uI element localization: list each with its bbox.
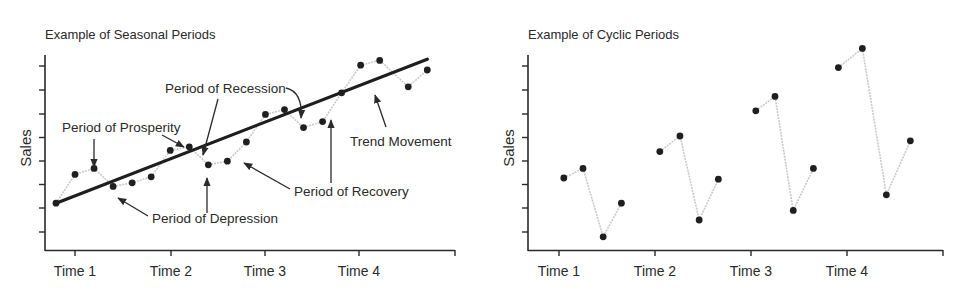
x-tick-label: Time 1 <box>54 263 96 279</box>
data-point <box>560 175 567 182</box>
cyclic-series <box>560 45 913 240</box>
data-point <box>53 200 60 207</box>
data-point <box>656 148 663 155</box>
cycle-group <box>752 93 816 214</box>
data-point <box>167 147 174 154</box>
x-tick-label: Time 3 <box>244 263 286 279</box>
x-tick-label: Time 4 <box>338 263 380 279</box>
data-point <box>835 64 842 71</box>
data-point <box>186 143 193 150</box>
y-axis <box>39 55 45 251</box>
svg-text:Period of Recession: Period of Recession <box>165 81 286 96</box>
arrow-icon <box>244 163 290 189</box>
data-point <box>319 118 326 125</box>
data-point <box>338 89 345 96</box>
cycle-line <box>838 48 910 194</box>
y-axis-label: Sales <box>17 129 34 167</box>
data-point <box>281 106 288 113</box>
seasonal-chart: Example of Seasonal Periods Sales Time 1… <box>17 27 455 279</box>
data-point <box>376 57 383 64</box>
x-axis: Time 1 Time 2 Time 3 Time 4 <box>45 250 455 279</box>
x-tick-label: Time 2 <box>150 263 192 279</box>
annotation-depression: Period of Depression <box>118 178 278 226</box>
x-tick-label: Time 1 <box>538 263 580 279</box>
data-point <box>300 124 307 131</box>
svg-text:Period of Recovery: Period of Recovery <box>294 184 409 199</box>
data-point <box>243 139 250 146</box>
chart-canvas: Example of Seasonal Periods Sales Time 1… <box>0 0 960 298</box>
data-point <box>580 165 587 172</box>
svg-text:Period of Prosperity: Period of Prosperity <box>62 120 181 135</box>
data-point <box>357 62 364 69</box>
annotation-recovery: Period of Recovery <box>244 120 409 199</box>
cycle-group <box>560 165 624 240</box>
data-point <box>883 191 890 198</box>
x-tick-label: Time 4 <box>826 263 868 279</box>
data-point <box>907 137 914 144</box>
cycle-group <box>656 133 721 224</box>
data-point <box>618 200 625 207</box>
data-point <box>424 67 431 74</box>
cycle-group <box>835 45 914 198</box>
x-tick-label: Time 2 <box>634 263 676 279</box>
data-point <box>405 83 412 90</box>
data-point <box>752 107 759 114</box>
data-point <box>677 133 684 140</box>
arrow-icon <box>162 135 184 147</box>
data-point <box>148 173 155 180</box>
annotation-trend: Trend Movement <box>350 95 452 149</box>
chart-title: Example of Cyclic Periods <box>528 27 679 42</box>
svg-text:Period of Depression: Period of Depression <box>152 211 278 226</box>
data-point <box>262 111 269 118</box>
data-point <box>715 176 722 183</box>
x-tick-label: Time 3 <box>730 263 772 279</box>
arrow-icon <box>375 95 386 127</box>
cycle-line <box>660 136 719 220</box>
arrow-icon <box>203 99 218 155</box>
data-point <box>790 207 797 214</box>
data-point <box>859 45 866 52</box>
cycle-line <box>756 96 814 210</box>
y-axis-label: Sales <box>500 129 517 167</box>
data-point <box>810 165 817 172</box>
data-point <box>224 158 231 165</box>
x-axis: Time 1 Time 2 Time 3 Time 4 <box>528 250 943 279</box>
cyclic-chart: Example of Cyclic Periods Sales Time 1 T… <box>500 27 943 279</box>
y-axis <box>522 55 528 251</box>
data-point <box>110 183 117 190</box>
data-point <box>205 161 212 168</box>
cycle-line <box>564 168 622 236</box>
data-point <box>772 93 779 100</box>
data-point <box>129 179 136 186</box>
annotation-recession: Period of Recession <box>165 81 301 155</box>
svg-text:Trend Movement: Trend Movement <box>350 134 452 149</box>
data-point <box>696 217 703 224</box>
data-point <box>72 171 79 178</box>
chart-title: Example of Seasonal Periods <box>45 27 216 42</box>
data-point <box>600 233 607 240</box>
arrow-icon <box>118 198 148 216</box>
